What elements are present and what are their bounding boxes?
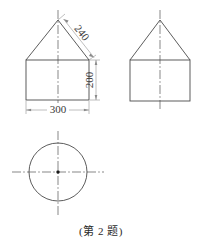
dimension-300: 300 xyxy=(26,101,89,115)
dimension-240-label: 240 xyxy=(72,22,92,43)
drawing-sheet: 240 200 xyxy=(0,0,202,246)
top-view xyxy=(12,131,104,215)
dimension-200-arrow-bottom xyxy=(95,95,98,100)
dimension-300-label: 300 xyxy=(50,103,67,115)
dimension-300-arrow-left xyxy=(26,109,31,112)
dimension-200: 200 xyxy=(83,60,100,100)
dimension-300-arrow-right xyxy=(84,109,89,112)
top-view-center-point xyxy=(56,170,59,173)
technical-drawing-canvas: 240 200 xyxy=(0,0,202,246)
dimension-240-extension-apex xyxy=(58,14,65,20)
side-view xyxy=(130,10,190,110)
front-view: 240 200 xyxy=(26,10,100,115)
dimension-200-label: 200 xyxy=(83,71,95,88)
dimension-240: 240 xyxy=(58,14,96,60)
side-view-body-rectangle xyxy=(130,60,190,101)
dimension-200-arrow-top xyxy=(95,60,98,65)
figure-caption: (第 2 题) xyxy=(0,222,202,238)
front-view-body-rectangle xyxy=(26,60,89,100)
